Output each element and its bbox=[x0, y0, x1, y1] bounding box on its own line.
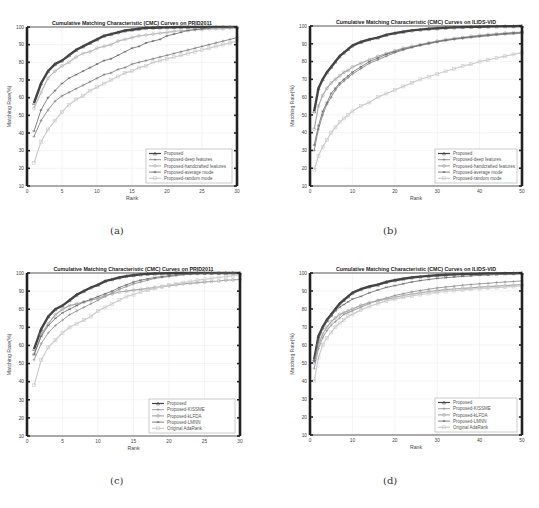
panel-label-b: (b) bbox=[383, 225, 397, 236]
svg-text:0: 0 bbox=[26, 439, 29, 444]
svg-text:10: 10 bbox=[19, 184, 25, 189]
svg-text:30: 30 bbox=[19, 148, 25, 153]
svg-text:0: 0 bbox=[26, 189, 29, 194]
x-axis-label: Rank bbox=[127, 445, 140, 451]
svg-text:80: 80 bbox=[19, 60, 25, 65]
chart-svg: 10203040506070809010001020304050Cumulati… bbox=[275, 250, 539, 465]
legend-entry: Original AdaRank bbox=[167, 426, 203, 431]
svg-text:10: 10 bbox=[19, 434, 25, 439]
legend-entry: Proposed-LMNN bbox=[167, 420, 201, 425]
svg-text:20: 20 bbox=[19, 416, 25, 421]
legend-entry: Original AdaRank bbox=[453, 425, 489, 430]
legend: ProposedProposed-deep featuresProposed-h… bbox=[435, 149, 517, 183]
chart-a: 102030405060708090100051015202530Cumulat… bbox=[0, 0, 270, 215]
svg-text:60: 60 bbox=[19, 343, 25, 348]
legend-entry: Proposed-random mode bbox=[453, 176, 502, 181]
svg-text:90: 90 bbox=[19, 42, 25, 47]
svg-text:100: 100 bbox=[299, 271, 307, 276]
legend-entry: Proposed bbox=[453, 151, 473, 156]
svg-text:20: 20 bbox=[302, 415, 308, 420]
x-axis-label: Rank bbox=[410, 195, 423, 201]
chart-c: 102030405060708090100051015202530Cumulat… bbox=[0, 250, 270, 465]
svg-text:100: 100 bbox=[16, 25, 24, 30]
svg-text:40: 40 bbox=[302, 379, 308, 384]
legend-entry: Proposed-deep features bbox=[453, 157, 502, 162]
svg-text:50: 50 bbox=[19, 113, 25, 118]
svg-text:0: 0 bbox=[309, 189, 312, 194]
svg-text:70: 70 bbox=[302, 77, 308, 82]
chart-b: 10203040506070809010001020304050Cumulati… bbox=[275, 0, 539, 215]
panel-label-c: (c) bbox=[110, 475, 123, 486]
svg-text:70: 70 bbox=[302, 325, 308, 330]
svg-text:20: 20 bbox=[19, 166, 25, 171]
x-axis-label: Rank bbox=[126, 195, 139, 201]
legend-entry: Proposed-deep features bbox=[164, 157, 213, 162]
svg-text:25: 25 bbox=[202, 439, 208, 444]
svg-text:30: 30 bbox=[302, 397, 308, 402]
svg-text:50: 50 bbox=[519, 189, 525, 194]
chart-d: 10203040506070809010001020304050Cumulati… bbox=[275, 250, 539, 465]
svg-text:80: 80 bbox=[19, 307, 25, 312]
svg-text:30: 30 bbox=[302, 148, 308, 153]
y-axis-label: Matching Rate(%) bbox=[6, 85, 12, 127]
x-axis-label: Rank bbox=[410, 444, 423, 450]
svg-text:5: 5 bbox=[61, 189, 64, 194]
legend-entry: Proposed-KISSME bbox=[453, 406, 491, 411]
svg-text:5: 5 bbox=[61, 439, 64, 444]
svg-text:20: 20 bbox=[392, 438, 398, 443]
svg-text:90: 90 bbox=[19, 289, 25, 294]
svg-text:90: 90 bbox=[302, 42, 308, 47]
svg-text:60: 60 bbox=[302, 343, 308, 348]
svg-text:10: 10 bbox=[302, 433, 308, 438]
y-axis-label: Matching Rate(%) bbox=[289, 333, 295, 375]
svg-text:30: 30 bbox=[435, 438, 441, 443]
svg-text:15: 15 bbox=[129, 189, 135, 194]
svg-text:10: 10 bbox=[350, 438, 356, 443]
svg-text:50: 50 bbox=[19, 361, 25, 366]
svg-text:20: 20 bbox=[302, 166, 308, 171]
svg-text:40: 40 bbox=[477, 438, 483, 443]
svg-text:50: 50 bbox=[302, 361, 308, 366]
chart-title: Cumulative Matching Characteristic (CMC)… bbox=[336, 19, 496, 25]
svg-text:30: 30 bbox=[237, 439, 243, 444]
svg-text:20: 20 bbox=[166, 439, 172, 444]
legend-entry: Proposed-kLFDA bbox=[167, 414, 202, 419]
svg-text:60: 60 bbox=[19, 95, 25, 100]
svg-text:90: 90 bbox=[302, 289, 308, 294]
svg-text:70: 70 bbox=[19, 78, 25, 83]
legend-entry: Proposed-LMNN bbox=[453, 419, 487, 424]
svg-text:40: 40 bbox=[19, 131, 25, 136]
legend: ProposedProposed-KISSMEProposed-kLFDAPro… bbox=[149, 399, 235, 433]
legend-entry: Proposed bbox=[167, 401, 187, 406]
legend-entry: Proposed-average mode bbox=[453, 170, 503, 175]
svg-text:30: 30 bbox=[435, 189, 441, 194]
svg-text:60: 60 bbox=[302, 95, 308, 100]
svg-text:70: 70 bbox=[19, 325, 25, 330]
y-axis-label: Matching Rate(%) bbox=[6, 333, 12, 375]
svg-text:100: 100 bbox=[16, 271, 24, 276]
legend-entry: Proposed-kLFDA bbox=[453, 413, 488, 418]
panel-label-a: (a) bbox=[110, 225, 124, 236]
svg-text:10: 10 bbox=[350, 189, 356, 194]
svg-text:100: 100 bbox=[299, 24, 307, 29]
svg-text:40: 40 bbox=[302, 130, 308, 135]
svg-text:80: 80 bbox=[302, 307, 308, 312]
svg-text:40: 40 bbox=[19, 379, 25, 384]
svg-text:40: 40 bbox=[477, 189, 483, 194]
svg-text:10: 10 bbox=[94, 189, 100, 194]
svg-text:20: 20 bbox=[164, 189, 170, 194]
panel-label-d: (d) bbox=[383, 475, 397, 486]
chart-title: Cumulative Matching Characteristic (CMC)… bbox=[52, 20, 212, 26]
legend-entry: Proposed bbox=[453, 400, 473, 405]
legend-entry: Proposed-handcrafted features bbox=[164, 164, 227, 169]
chart-title: Cumulative Matching Characteristic (CMC)… bbox=[53, 266, 213, 272]
svg-text:30: 30 bbox=[234, 189, 240, 194]
legend-entry: Proposed bbox=[164, 151, 184, 156]
legend-entry: Proposed-average mode bbox=[164, 170, 214, 175]
svg-text:30: 30 bbox=[19, 398, 25, 403]
svg-text:50: 50 bbox=[519, 438, 525, 443]
svg-text:15: 15 bbox=[131, 439, 137, 444]
legend: ProposedProposed-deep featuresProposed-h… bbox=[146, 149, 232, 183]
y-axis-label: Matching Rate(%) bbox=[289, 85, 295, 127]
legend-entry: Proposed-handcrafted features bbox=[453, 164, 516, 169]
